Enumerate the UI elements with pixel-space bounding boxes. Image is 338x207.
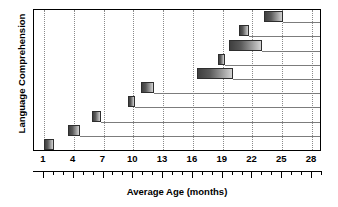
x-tick-major (222, 171, 223, 178)
x-tick-label: 13 (157, 153, 168, 164)
x-tick-major (132, 171, 133, 178)
x-tick-minor (321, 171, 322, 175)
x-tick-label: 7 (100, 153, 105, 164)
range-bar-chart: Language Comprehension 14710131619222528… (0, 0, 338, 207)
leader-line (154, 93, 321, 94)
leader-line (249, 36, 322, 37)
x-tick-minor (152, 171, 153, 175)
x-tick-major (73, 171, 74, 178)
x-tick-label: 28 (306, 153, 317, 164)
leader-line (80, 136, 321, 137)
x-tick-major (251, 171, 252, 178)
x-tick-minor (202, 171, 203, 175)
plot-area (33, 9, 321, 151)
x-tick-major (281, 171, 282, 178)
x-tick-minor (301, 171, 302, 175)
x-tick-major (103, 171, 104, 178)
y-axis-title: Language Comprehension (16, 0, 27, 149)
x-tick-label: 19 (216, 153, 227, 164)
x-tick-minor (182, 171, 183, 175)
x-axis-title: Average Age (months) (33, 186, 321, 197)
range-bar (92, 111, 101, 122)
x-tick-minor (53, 171, 54, 175)
x-tick-minor (232, 171, 233, 175)
x-tick-major (311, 171, 312, 178)
range-bar (264, 11, 283, 22)
range-bar (239, 25, 249, 36)
range-bar (68, 125, 80, 136)
x-tick-label: 25 (276, 153, 287, 164)
gridline-x-13 (163, 10, 164, 150)
x-tick-minor (271, 171, 272, 175)
range-bar (229, 40, 263, 51)
x-tick-minor (93, 171, 94, 175)
gridline-x-22 (252, 10, 253, 150)
x-tick-major (162, 171, 163, 178)
gridline-x-10 (133, 10, 134, 150)
x-axis: 14710131619222528 (33, 151, 321, 185)
range-bar (218, 54, 225, 65)
x-tick-minor (291, 171, 292, 175)
x-axis-line (33, 171, 321, 172)
x-tick-minor (83, 171, 84, 175)
x-tick-minor (63, 171, 64, 175)
gridline-x-28 (312, 10, 313, 150)
x-tick-major (43, 171, 44, 178)
range-bar (128, 96, 135, 107)
gridline-x-16 (193, 10, 194, 150)
x-tick-label: 16 (187, 153, 198, 164)
gridline-x-1 (44, 10, 45, 150)
gridline-x-7 (104, 10, 105, 150)
leader-line (262, 51, 321, 52)
x-tick-label: 10 (127, 153, 138, 164)
leader-line (225, 65, 321, 66)
x-tick-minor (122, 171, 123, 175)
x-tick-minor (172, 171, 173, 175)
x-tick-major (192, 171, 193, 178)
x-tick-minor (261, 171, 262, 175)
range-bar (141, 82, 154, 93)
x-tick-minor (112, 171, 113, 175)
x-tick-minor (142, 171, 143, 175)
range-bar (44, 139, 54, 150)
leader-line (233, 79, 321, 80)
range-bar (197, 68, 233, 79)
gridline-x-25 (282, 10, 283, 150)
x-tick-label: 22 (246, 153, 257, 164)
gridline-x-19 (223, 10, 224, 150)
x-tick-minor (212, 171, 213, 175)
x-tick-label: 4 (70, 153, 75, 164)
x-tick-label: 1 (40, 153, 45, 164)
leader-line (101, 122, 321, 123)
leader-line (283, 22, 321, 23)
x-tick-minor (242, 171, 243, 175)
leader-line (135, 107, 321, 108)
